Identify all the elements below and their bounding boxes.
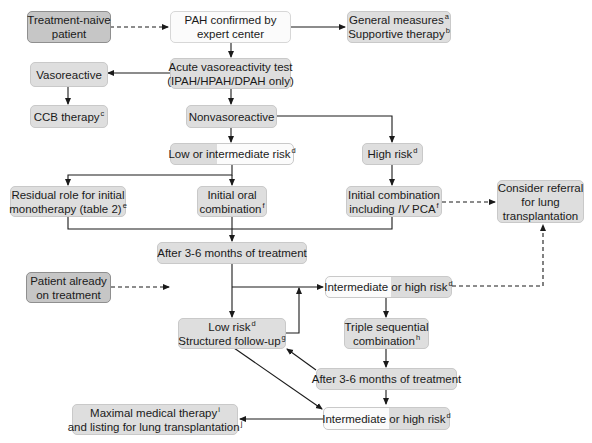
node-text: PAH confirmed by bbox=[185, 13, 277, 27]
node-text: (IPAH/HPAH/DPAH only) bbox=[167, 74, 294, 88]
node-text: Patient already bbox=[30, 274, 107, 288]
node-text: on treatment bbox=[36, 288, 101, 302]
node-high-risk: High riskd bbox=[362, 143, 423, 165]
node-triple-sequential: Triple sequential combinationh bbox=[344, 318, 429, 349]
node-text: Triple sequential bbox=[345, 320, 429, 334]
node-text: Low riskd bbox=[208, 320, 255, 334]
node-text: patient bbox=[52, 27, 87, 41]
node-patient-already: Patient already on treatment bbox=[26, 272, 111, 303]
node-text: Treatment-naive bbox=[27, 13, 110, 27]
node-ccb-therapy: CCB therapyc bbox=[30, 105, 108, 128]
node-residual-role: Residual role for initial monotherapy (t… bbox=[10, 186, 126, 217]
node-text: for lung bbox=[521, 195, 559, 209]
node-consider-referral: Consider referral for lung transplantati… bbox=[497, 180, 584, 223]
node-nonvasoreactive: Nonvasoreactive bbox=[186, 105, 277, 128]
node-general-measures: General measuresa Supportive therapyb bbox=[347, 11, 451, 43]
node-text: Vasoreactive bbox=[36, 68, 102, 82]
node-text: Residual role for initial bbox=[11, 188, 124, 202]
node-text: Intermediate or high riskd bbox=[322, 412, 451, 426]
node-low-risk-followup: Low riskd Structured follow-upg bbox=[178, 318, 286, 349]
node-low-intermediate-risk: Low or intermediate riskd bbox=[170, 143, 294, 165]
node-text: Consider referral bbox=[498, 181, 584, 195]
node-text: High riskd bbox=[368, 147, 418, 161]
node-after-months-2: After 3-6 months of treatment bbox=[316, 368, 457, 390]
node-text: Structured follow-upg bbox=[178, 334, 285, 348]
node-text: transplantation bbox=[503, 209, 578, 223]
node-text: including IV PCAf bbox=[349, 202, 438, 216]
node-text: Acute vasoreactivity test bbox=[169, 60, 293, 74]
node-text: Initial oral bbox=[207, 188, 256, 202]
node-text: Low or intermediate riskd bbox=[168, 147, 295, 161]
flowchart-canvas: Treatment-naive patient PAH confirmed by… bbox=[0, 0, 592, 443]
node-text: Maximal medical therapyi bbox=[90, 406, 220, 420]
node-text: expert center bbox=[197, 27, 264, 41]
node-text: combinationh bbox=[353, 334, 420, 348]
node-text: monotherapy (table 2)e bbox=[9, 202, 127, 216]
node-text: and listing for lung transplantationj bbox=[68, 420, 243, 434]
node-intermediate-high-risk-2: Intermediate or high riskd bbox=[323, 407, 450, 430]
node-initial-oral: Initial oral combinationf bbox=[197, 186, 267, 217]
node-text: Initial combination bbox=[348, 188, 440, 202]
node-maximal-medical: Maximal medical therapyi and listing for… bbox=[72, 404, 238, 435]
node-pah-confirmed: PAH confirmed by expert center bbox=[170, 11, 291, 43]
node-text: After 3-6 months of treatment bbox=[312, 372, 462, 386]
node-after-months-1: After 3-6 months of treatment bbox=[157, 242, 307, 264]
node-vasoreactivity-test: Acute vasoreactivity test (IPAH/HPAH/DPA… bbox=[170, 58, 291, 89]
node-text: combinationf bbox=[199, 202, 264, 216]
node-text: Intermediate or high riskd bbox=[324, 280, 453, 294]
node-text: Supportive therapyb bbox=[348, 27, 450, 41]
node-treatment-naive: Treatment-naive patient bbox=[27, 11, 111, 43]
node-text: CCB therapyc bbox=[34, 110, 105, 124]
node-intermediate-high-risk-1: Intermediate or high riskd bbox=[325, 276, 452, 298]
node-text: After 3-6 months of treatment bbox=[157, 246, 307, 260]
node-initial-combination-iv: Initial combination including IV PCAf bbox=[346, 186, 442, 217]
node-text: General measuresa bbox=[349, 13, 449, 27]
node-vasoreactive: Vasoreactive bbox=[30, 62, 108, 87]
node-text: Nonvasoreactive bbox=[189, 110, 275, 124]
